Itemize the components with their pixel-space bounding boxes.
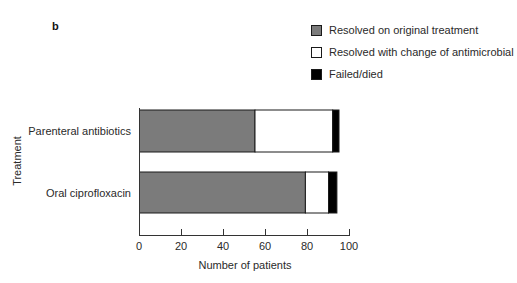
bar-segment <box>140 110 256 152</box>
bar-segment <box>255 110 333 152</box>
bar-segment <box>305 172 328 213</box>
x-tick-label: 80 <box>301 240 313 252</box>
bars <box>140 110 340 213</box>
bar-segment <box>333 110 339 152</box>
chart: b Resolved on original treatment Resolve… <box>0 0 517 283</box>
x-axis-title: Number of patients <box>199 259 292 271</box>
x-axis-ticks <box>140 229 350 236</box>
bar-segment <box>140 172 306 213</box>
x-tick-label: 40 <box>217 240 229 252</box>
bar-segment <box>329 172 337 213</box>
x-tick-label: 60 <box>259 240 271 252</box>
x-tick-label: 20 <box>175 240 187 252</box>
x-tick-label: 0 <box>136 240 142 252</box>
x-tick-label: 100 <box>340 240 358 252</box>
